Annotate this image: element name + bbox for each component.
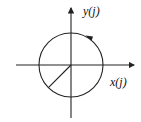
- diagram-canvas: y(j) x(j): [0, 0, 141, 122]
- x-axis-label: x(j): [109, 75, 127, 89]
- radius-vector: [48, 65, 71, 88]
- y-axis-label: y(j): [82, 4, 100, 18]
